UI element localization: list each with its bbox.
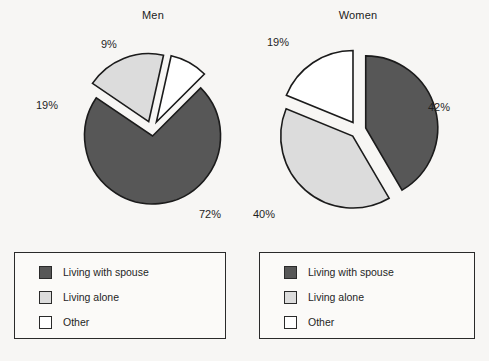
legend-men: Living with spouse Living alone Other (14, 252, 226, 339)
legend-item-living-with-spouse: Living with spouse (284, 265, 394, 279)
pie-men (0, 0, 244, 240)
legend-label-living-with-spouse: Living with spouse (308, 266, 394, 279)
pie-slice-women-other (286, 51, 353, 123)
pie-value-label-men-living-alone: 19% (36, 99, 58, 111)
legend-label-living-alone: Living alone (63, 291, 119, 304)
legend-item-living-with-spouse: Living with spouse (39, 265, 149, 279)
legend-swatch-living-alone (284, 291, 297, 304)
legend-item-living-alone: Living alone (39, 290, 119, 304)
pie-value-label-men-other: 9% (101, 38, 117, 50)
pie-slice-women-living-with-spouse (366, 56, 438, 190)
pie-value-label-men-living-with-spouse: 72% (199, 208, 221, 220)
legend-swatch-living-with-spouse (284, 266, 297, 279)
legend-label-other: Other (308, 316, 334, 329)
legend-item-other: Other (284, 315, 334, 329)
legend-label-other: Other (63, 316, 89, 329)
legend-label-living-alone: Living alone (308, 291, 364, 304)
pie-value-label-women-living-with-spouse: 42% (428, 101, 450, 113)
legend-swatch-other (284, 316, 297, 329)
pie-chart-figure: Men 9% 19% 72% Women 19% (0, 0, 489, 361)
legend-item-living-alone: Living alone (284, 290, 364, 304)
legend-swatch-other (39, 316, 52, 329)
pie-value-label-women-other: 19% (267, 36, 289, 48)
legend-women: Living with spouse Living alone Other (259, 252, 475, 339)
pie-value-label-women-living-alone: 40% (253, 208, 275, 220)
legend-swatch-living-with-spouse (39, 266, 52, 279)
legend-label-living-with-spouse: Living with spouse (63, 266, 149, 279)
legend-item-other: Other (39, 315, 89, 329)
legend-swatch-living-alone (39, 291, 52, 304)
